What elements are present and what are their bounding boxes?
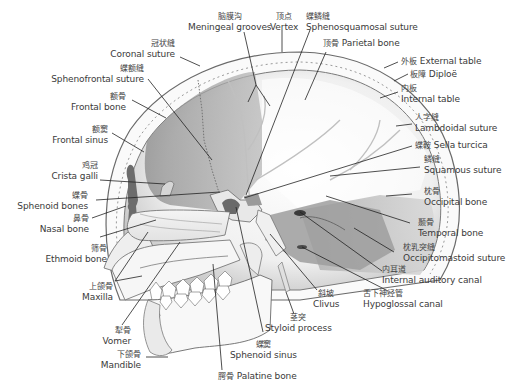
label-squamous-suture: 鳞缝 Squamous suture (424, 155, 501, 176)
label-en: Internal table (401, 94, 460, 105)
label-clivus: 斜坡 Clivus (313, 289, 339, 310)
label-en: Vertex (270, 22, 298, 33)
label-en: Maxilla (82, 292, 113, 303)
label-zh: 蝶额缝 (51, 64, 144, 74)
label-en: Coronal suture (110, 49, 175, 60)
label-sella-turcica: 蝶鞍Sella turcica (415, 140, 488, 151)
label-zh: 内板 (401, 84, 460, 94)
label-sphenosquamosal-suture: 蝶鳞缝 Sphenosquamosal suture (306, 12, 418, 33)
label-external-table: 外板External table (401, 56, 481, 67)
label-en: Ethmoid bone (45, 254, 107, 265)
label-en: Sphenofrontal suture (51, 74, 144, 85)
label-occipitomastoid-suture: 枕乳突缝 Occipitomastoid suture (403, 243, 505, 264)
label-en: Occipital bone (424, 197, 487, 208)
label-zh: 枕乳突缝 (403, 243, 505, 253)
label-occipital-bone: 枕骨 Occipital bone (424, 187, 487, 208)
label-en: Parietal bone (342, 38, 400, 48)
label-zh: 斜坡 (313, 289, 339, 299)
label-en: Nasal bone (40, 224, 89, 235)
label-zh: 脑膜沟 (188, 12, 271, 22)
label-zh: 鳞缝 (424, 155, 501, 165)
label-mandible: 下颌骨 Mandible (101, 350, 141, 371)
label-en: Palatine bone (237, 371, 297, 381)
label-internal-table: 内板 Internal table (401, 84, 460, 105)
label-en: Hypoglossal canal (363, 299, 443, 310)
label-en: Sphenosquamosal suture (306, 22, 418, 33)
label-sphenoid-sinus: 蝶窦 Sphenoid sinus (230, 340, 297, 361)
label-zh: 舌下神经管 (363, 289, 443, 299)
label-sphenoid-bones: 蝶骨 Sphenoid bones (17, 191, 88, 212)
label-zh: 内耳道 (382, 265, 482, 275)
label-en: Frontal sinus (52, 135, 108, 146)
label-zh: 犁骨 (103, 326, 131, 336)
label-zh: 蝶鳞缝 (306, 12, 418, 22)
label-en: Clivus (313, 299, 339, 310)
label-en: Meningeal grooves (188, 22, 271, 33)
label-en: Occipitomastoid suture (403, 253, 505, 264)
label-en: Temporal bone (418, 228, 483, 239)
label-zh: 蝶骨 (17, 191, 88, 201)
label-en: Crista galli (51, 171, 98, 182)
label-en: Internal auditory canal (382, 275, 482, 286)
label-en: Sphenoid bones (17, 201, 88, 212)
label-zh: 茎突 (265, 313, 332, 323)
skull-diagram: 脑膜沟 Meningeal grooves 顶点 Vertex 蝶鳞缝 Sphe… (0, 0, 515, 392)
label-en: Squamous suture (424, 165, 501, 176)
label-en: Styloid process (265, 323, 332, 334)
label-coronal-suture: 冠状缝 Coronal suture (110, 39, 175, 60)
label-temporal-bone: 颞骨 Temporal bone (418, 218, 483, 239)
label-internal-auditory-canal: 内耳道 Internal auditory canal (382, 265, 482, 286)
label-zh: 冠状缝 (110, 39, 175, 49)
label-zh: 蝶窦 (230, 340, 297, 350)
label-ethmoid-bone: 筛骨 Ethmoid bone (45, 244, 107, 265)
label-lambdoidal-suture: 人字缝 Lambdoidal suture (415, 113, 497, 134)
label-en: Diploë (429, 69, 457, 79)
label-en: Lambdoidal suture (415, 123, 497, 134)
label-hypoglossal-canal: 舌下神经管 Hypoglossal canal (363, 289, 443, 310)
label-zh: 额骨 (71, 92, 126, 102)
label-palatine-bone: 腭骨Palatine bone (218, 371, 297, 382)
label-parietal-bone: 顶骨Parietal bone (323, 38, 400, 49)
label-zh: 枕骨 (424, 187, 487, 197)
label-zh: 额窦 (52, 125, 108, 135)
label-zh: 腭骨 (218, 372, 234, 381)
label-zh: 鸡冠 (51, 161, 98, 171)
label-zh: 顶骨 (323, 39, 339, 48)
label-maxilla: 上颌骨 Maxilla (82, 282, 113, 303)
label-zh: 颞骨 (418, 218, 483, 228)
label-en: Mandible (101, 360, 141, 371)
label-zh: 板障 (410, 70, 426, 79)
label-en: External table (420, 56, 482, 66)
label-nasal-bone: 鼻骨 Nasal bone (40, 214, 89, 235)
label-en: Frontal bone (71, 102, 126, 113)
label-en: Sella turcica (434, 140, 488, 150)
label-zh: 顶点 (270, 12, 298, 22)
label-frontal-sinus: 额窦 Frontal sinus (52, 125, 108, 146)
label-zh: 上颌骨 (82, 282, 113, 292)
label-zh: 人字缝 (415, 113, 497, 123)
label-sphenofrontal-suture: 蝶额缝 Sphenofrontal suture (51, 64, 144, 85)
label-zh: 蝶鞍 (415, 141, 431, 150)
label-vertex: 顶点 Vertex (270, 12, 298, 33)
label-zh: 筛骨 (45, 244, 107, 254)
label-crista-galli: 鸡冠 Crista galli (51, 161, 98, 182)
label-frontal-bone: 额骨 Frontal bone (71, 92, 126, 113)
label-vomer: 犁骨 Vomer (103, 326, 131, 347)
label-diploe: 板障Diploë (410, 69, 457, 80)
label-en: Vomer (103, 336, 131, 347)
label-en: Sphenoid sinus (230, 350, 297, 361)
label-zh: 下颌骨 (101, 350, 141, 360)
label-meningeal-grooves: 脑膜沟 Meningeal grooves (188, 12, 271, 33)
label-zh: 外板 (401, 57, 417, 66)
label-zh: 鼻骨 (40, 214, 89, 224)
label-styloid-process: 茎突 Styloid process (265, 313, 332, 334)
